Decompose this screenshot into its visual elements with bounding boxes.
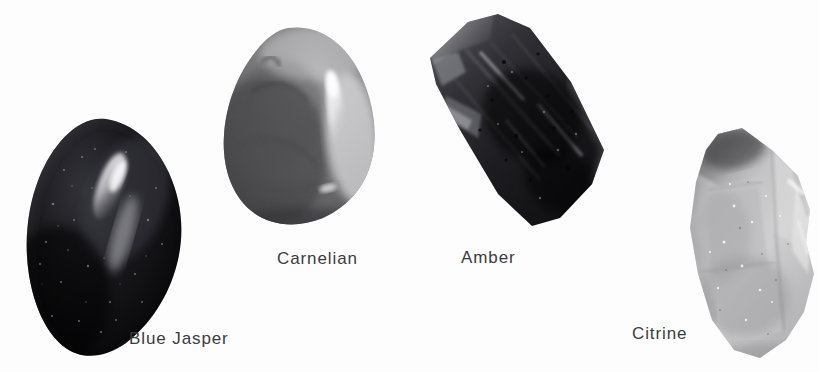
blue-jasper-illustration [22,116,188,360]
amber-illustration [420,8,610,232]
carnelian-illustration [222,26,378,228]
gemstone-plate: Blue Jasper [0,0,819,372]
specimen-citrine [676,124,819,366]
specimen-amber [420,8,610,232]
specimen-carnelian [222,26,378,228]
caption-carnelian: Carnelian [277,249,358,269]
citrine-illustration [676,124,819,366]
caption-blue-jasper: Blue Jasper [129,329,229,349]
specimen-blue-jasper [22,116,188,360]
caption-amber: Amber [461,248,516,268]
caption-citrine: Citrine [632,324,687,344]
